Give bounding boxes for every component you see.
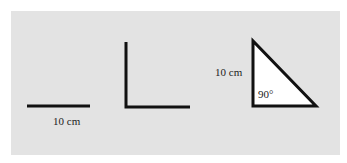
geometry-figure [0, 0, 347, 163]
right-angle-shape [126, 42, 190, 107]
triangle-side-label: 10 cm [215, 67, 242, 78]
triangle-angle-label: 90° [258, 89, 273, 100]
segment-length-label: 10 cm [53, 116, 80, 127]
